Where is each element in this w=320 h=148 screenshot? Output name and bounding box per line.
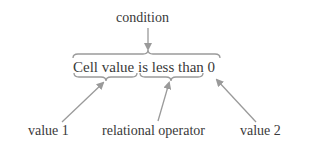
expression-text: Cell value is less than 0 (73, 60, 215, 75)
value2-label: value 2 (240, 124, 281, 138)
condition-label: condition (116, 11, 169, 25)
operator-label: relational operator (102, 124, 205, 138)
value2-arrow (217, 80, 256, 122)
value1-arrow (62, 83, 103, 122)
top-brace (73, 50, 220, 58)
operator-arrow (158, 83, 169, 121)
value1-label: value 1 (28, 124, 69, 138)
